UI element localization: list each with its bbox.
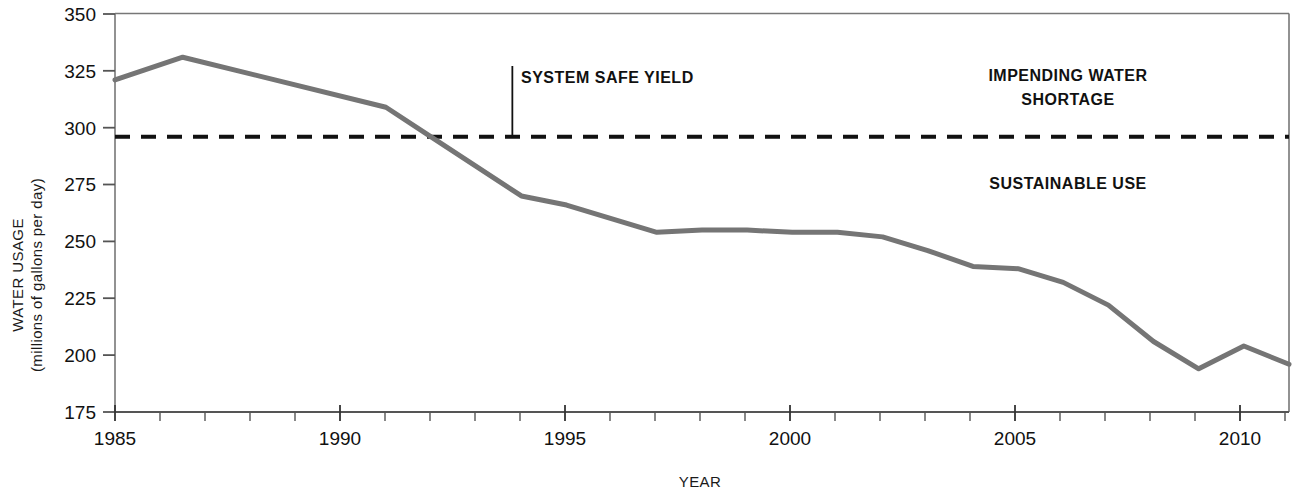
y-tick-label: 300 (64, 118, 96, 139)
x-tick-label: 2010 (1219, 428, 1261, 449)
y-axis-title-line2: (millions of gallons per day) (28, 178, 45, 372)
x-tick-label: 2005 (994, 428, 1036, 449)
y-tick-label: 350 (64, 4, 96, 25)
x-axis-minor-ticks (160, 412, 1285, 421)
x-tick-label: 1990 (319, 428, 361, 449)
y-axis-tick-labels: 350 325 300 275 250 225 200 175 (64, 4, 96, 423)
y-axis-ticks (103, 14, 115, 412)
y-tick-label: 250 (64, 231, 96, 252)
annotation-impending-water-shortage-line1: IMPENDING WATER (988, 67, 1147, 84)
y-tick-label: 200 (64, 345, 96, 366)
annotation-sustainable-use: SUSTAINABLE USE (989, 175, 1146, 192)
annotation-impending-water-shortage-line2: SHORTAGE (1021, 91, 1114, 108)
annotation-system-safe-yield: SYSTEM SAFE YIELD (521, 69, 694, 86)
y-tick-label: 275 (64, 174, 96, 195)
x-tick-label: 2000 (769, 428, 811, 449)
y-tick-label: 325 (64, 61, 96, 82)
y-axis-title: WATER USAGE (millions of gallons per day… (9, 178, 45, 372)
y-tick-label: 225 (64, 288, 96, 309)
y-axis-title-line1: WATER USAGE (9, 218, 26, 332)
x-tick-label: 1995 (544, 428, 586, 449)
x-tick-label: 1985 (94, 428, 136, 449)
chart-page: 350 325 300 275 250 225 200 175 WATER US… (0, 0, 1301, 500)
water-usage-line-chart: 350 325 300 275 250 225 200 175 WATER US… (0, 0, 1301, 500)
x-axis-tick-labels: 1985 1990 1995 2000 2005 2010 (94, 428, 1261, 449)
y-tick-label: 175 (64, 402, 96, 423)
x-axis-title: YEAR (679, 473, 721, 490)
